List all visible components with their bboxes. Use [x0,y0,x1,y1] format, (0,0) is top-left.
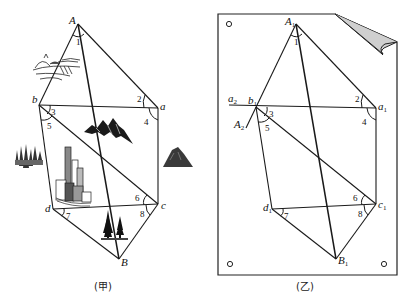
angle-arc-4 [149,108,158,120]
mountain-range-icon [84,118,133,144]
angle-number-2: 2 [355,94,360,104]
lone-mountain-icon [163,147,193,167]
city-buildings-icon [56,147,91,206]
river-bridge-icon [33,54,80,80]
line-A-b [39,24,78,105]
angle-number-3: 3 [51,107,56,117]
angle-number-8: 8 [140,209,145,219]
forest-icon [15,144,43,168]
angle-arc-8 [146,205,150,215]
angle-number-4: 4 [362,117,367,127]
angle-number-7: 7 [66,211,71,221]
point-label-B: B [121,256,128,268]
angle-arc-2 [143,95,145,108]
left-figure: A b a c d B 1 2 3 4 5 6 7 8 [15,14,193,292]
point-label-d: d [45,202,51,214]
angle-number-4: 4 [144,117,149,127]
caption-left: (甲) [94,281,112,292]
line-A-B [78,24,119,259]
angle-number-2: 2 [137,94,142,104]
angle-arc-6 [143,195,147,205]
angle-number-6: 6 [353,193,358,203]
angle-number-6: 6 [135,193,140,203]
line-b-a [39,105,158,108]
line-c-B [119,204,158,259]
angle-number-3: 3 [269,109,274,119]
point-label-c: c [161,199,166,211]
angle-number-5: 5 [265,123,270,133]
point-label-a: a [160,100,166,112]
point-label-b: b [32,93,38,105]
angle-number-5: 5 [47,121,52,131]
angle-number-7: 7 [284,211,289,221]
paper-sheet [218,14,397,275]
traverse-diagram: A b a c d B 1 2 3 4 5 6 7 8 [0,0,413,307]
point-label-A: A [68,14,76,26]
angle-number-1: 1 [294,37,299,47]
angle-number-8: 8 [358,209,363,219]
right-figure: A1 b1 a1 c1 d1 B1 a2 A2 1 2 3 4 5 6 7 8 … [218,14,397,292]
caption-right: (乙) [296,281,314,292]
angle-number-1: 1 [76,37,81,47]
